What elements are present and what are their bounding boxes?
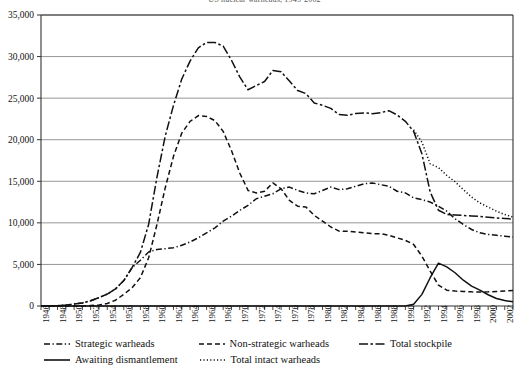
- x-tick-label: 1956: [124, 305, 134, 324]
- x-tick-label: 1978: [306, 305, 316, 324]
- x-tick-label: 1954: [108, 305, 118, 324]
- legend-item-strategic-warheads[interactable]: Strategic warheads: [44, 339, 155, 350]
- chart-legend: Strategic warheads Non-strategic warhead…: [0, 336, 529, 372]
- series-line-total-stockpile: [41, 42, 513, 306]
- legend-label: Strategic warheads: [75, 339, 155, 350]
- x-tick-label: 1974: [273, 305, 283, 324]
- legend-label: Non-strategic warheads: [230, 339, 329, 350]
- legend-swatch-long-dash-dot-icon: [359, 339, 385, 349]
- x-tick-label: 1980: [323, 305, 333, 324]
- series-line-non-strategic-warheads: [41, 116, 513, 306]
- x-tick-label: 1966: [207, 305, 217, 324]
- x-tick-label: 1992: [422, 305, 432, 323]
- y-tick-label: 5,000: [13, 260, 35, 270]
- x-tick-label: 2000: [488, 305, 498, 324]
- x-tick-label: 1952: [91, 305, 101, 323]
- x-tick-label: 1946: [41, 305, 51, 324]
- x-tick-label: 1962: [174, 305, 184, 323]
- y-tick-label: 25,000: [8, 94, 34, 104]
- legend-item-total-stockpile[interactable]: Total stockpile: [359, 339, 452, 350]
- legend-row-1: Strategic warheads Non-strategic warhead…: [0, 336, 529, 352]
- x-tick-label: 1972: [257, 305, 267, 323]
- legend-label: Awaiting dismantlement: [75, 355, 178, 366]
- x-axis-labels: 1946194819501952195419561958196019621964…: [41, 305, 515, 324]
- y-tick-label: 30,000: [8, 52, 34, 62]
- y-tick-label: 15,000: [8, 177, 34, 187]
- x-tick-label: 1984: [356, 305, 366, 324]
- legend-swatch-dash-icon: [199, 339, 225, 349]
- x-tick-label: 2002: [505, 305, 515, 323]
- series-line-strategic-warheads: [41, 183, 513, 306]
- chart-figure: US nuclear warheads, 1945-2002 05,00010,…: [0, 0, 529, 372]
- y-axis-labels: 05,00010,00015,00020,00025,00030,00035,0…: [8, 10, 34, 311]
- plot-frame: [41, 15, 513, 306]
- series-line-total-intact-warheads: [414, 130, 513, 217]
- legend-row-2: Awaiting dismantlement Total intact warh…: [0, 352, 529, 368]
- y-tick-label: 20,000: [8, 135, 34, 145]
- x-tick-label: 1986: [373, 305, 383, 324]
- chart-plot-area: 05,00010,00015,00020,00025,00030,00035,0…: [0, 0, 529, 336]
- gridlines: [41, 15, 513, 264]
- legend-swatch-dash-dot-icon: [44, 339, 70, 349]
- x-tick-label: 1970: [240, 305, 250, 324]
- x-tick-label: 1976: [290, 305, 300, 324]
- x-tick-label: 1982: [339, 305, 349, 323]
- legend-label: Total intact warheads: [231, 355, 321, 366]
- legend-item-awaiting-dismantlement[interactable]: Awaiting dismantlement: [44, 355, 178, 366]
- x-tick-label: 1990: [406, 305, 416, 324]
- x-tick-label: 1964: [190, 305, 200, 324]
- y-tick-label: 0: [29, 301, 34, 311]
- x-tick-label: 1950: [74, 305, 84, 324]
- x-tick-label: 1968: [223, 305, 233, 324]
- x-tick-label: 1958: [141, 305, 151, 324]
- x-tick-label: 1960: [157, 305, 167, 324]
- legend-item-non-strategic-warheads[interactable]: Non-strategic warheads: [199, 339, 329, 350]
- y-tick-label: 10,000: [8, 218, 34, 228]
- y-axis-ticks: [37, 15, 41, 306]
- x-tick-label: 1996: [455, 305, 465, 324]
- legend-swatch-solid-icon: [44, 355, 70, 365]
- x-tick-label: 1998: [472, 305, 482, 324]
- x-tick-label: 1948: [58, 305, 68, 324]
- x-tick-label: 1988: [389, 305, 399, 324]
- legend-label: Total stockpile: [390, 339, 452, 350]
- data-series-group: [41, 42, 513, 306]
- x-tick-label: 1994: [439, 305, 449, 324]
- y-tick-label: 35,000: [8, 10, 34, 20]
- series-line-awaiting-dismantlement: [41, 263, 513, 306]
- legend-item-total-intact-warheads[interactable]: Total intact warheads: [200, 355, 321, 366]
- legend-swatch-dotted-icon: [200, 355, 226, 365]
